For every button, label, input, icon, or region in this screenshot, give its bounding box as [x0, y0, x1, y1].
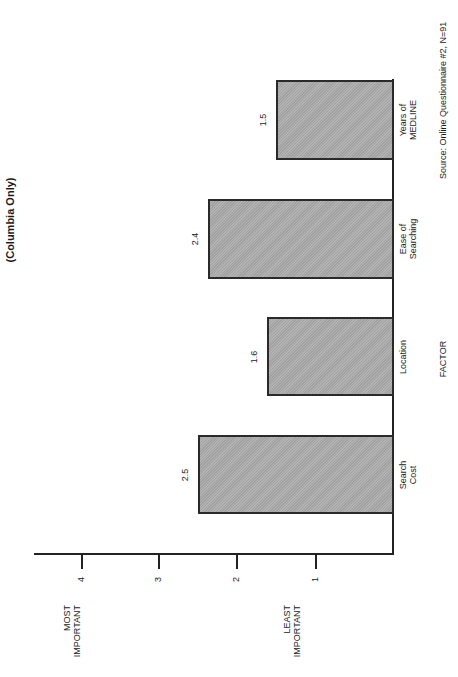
category-label-line1: Years of [398, 100, 408, 140]
value-axis [34, 553, 394, 555]
tick-label-3: 3 [153, 577, 163, 591]
tick-label-4: 4 [76, 577, 86, 591]
most-important-line2: IMPORTANT [72, 605, 82, 675]
most-important-line1: MOST [62, 605, 72, 675]
source-note: Source: Online Questionnaire #2, N=91 [438, 22, 448, 179]
rotated-chart-page: (Columbia Only) 4 3 2 1 MOST IMPORTANT L… [0, 0, 458, 677]
least-important-line1: LEAST [282, 605, 292, 675]
category-label-line1: Location [398, 340, 408, 374]
tick-3 [158, 555, 160, 569]
tick-4 [81, 555, 83, 569]
category-label-line2: MEDLINE [408, 100, 418, 140]
tick-2 [236, 555, 238, 569]
tick-label-1: 1 [310, 577, 320, 591]
category-label-line1: Ease of [398, 219, 408, 260]
category-label-years-of-medline: Years of MEDLINE [398, 100, 418, 140]
bar-ease-of-searching [208, 199, 394, 279]
bar-value-location: 1.6 [249, 351, 259, 364]
bar-value-years-of-medline: 1.5 [258, 114, 268, 127]
least-important-label: LEAST IMPORTANT [282, 605, 302, 675]
category-label-location: Location [398, 340, 408, 374]
category-label-line1: Search [398, 461, 408, 490]
tick-1 [315, 555, 317, 569]
category-label-search-cost: Search Cost [398, 461, 418, 490]
category-label-line2: Cost [408, 461, 418, 490]
chart-title: (Columbia Only) [4, 178, 16, 263]
most-important-label: MOST IMPORTANT [62, 605, 82, 675]
category-label-ease-of-searching: Ease of Searching [398, 219, 418, 260]
bar-value-search-cost: 2.5 [180, 469, 190, 482]
category-label-line2: Searching [408, 219, 418, 260]
bar-location [267, 317, 394, 396]
bar-value-ease-of-searching: 2.4 [190, 233, 200, 246]
tick-label-2: 2 [231, 577, 241, 591]
bar-search-cost [198, 435, 394, 514]
x-axis-label: FACTOR [438, 341, 448, 377]
bar-years-of-medline [276, 80, 394, 160]
least-important-line2: IMPORTANT [292, 605, 302, 675]
